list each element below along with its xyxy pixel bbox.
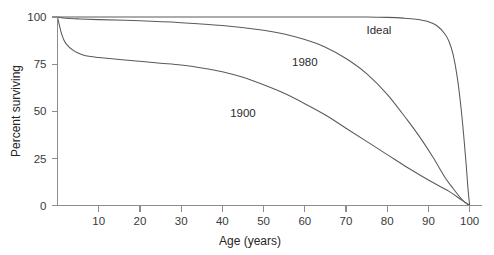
curve-ideal: [58, 17, 470, 206]
y-tick-label: 0: [40, 200, 46, 212]
curve-1980: [58, 17, 470, 206]
curve-label-ideal: Ideal: [366, 24, 391, 36]
x-tick-label: 70: [340, 215, 353, 227]
x-tick-label: 100: [460, 215, 479, 227]
chart-container: 0255075100 102030405060708090100 Ideal19…: [0, 0, 494, 255]
curve-group: [58, 17, 470, 206]
x-axis-ticks: 102030405060708090100: [92, 206, 479, 227]
curve-1900: [58, 17, 470, 206]
y-tick-label: 100: [27, 11, 46, 23]
y-axis-ticks: 0255075100: [27, 11, 57, 212]
x-tick-label: 80: [381, 215, 394, 227]
x-tick-label: 40: [216, 215, 229, 227]
x-axis-title: Age (years): [219, 234, 281, 248]
curve-label-1980: 1980: [292, 56, 318, 68]
y-tick-label: 50: [34, 105, 47, 117]
curve-labels-group: Ideal19801900: [230, 24, 391, 119]
y-tick-label: 75: [34, 58, 47, 70]
x-tick-label: 20: [134, 215, 147, 227]
x-tick-label: 10: [92, 215, 105, 227]
axes-group: [58, 17, 483, 206]
x-tick-label: 90: [422, 215, 435, 227]
x-tick-label: 30: [175, 215, 188, 227]
x-tick-label: 50: [257, 215, 270, 227]
survivorship-curves-chart: 0255075100 102030405060708090100 Ideal19…: [0, 0, 494, 255]
y-axis-title: Percent surviving: [9, 65, 23, 157]
curve-label-1900: 1900: [230, 107, 256, 119]
y-tick-label: 25: [34, 153, 47, 165]
x-tick-label: 60: [298, 215, 311, 227]
